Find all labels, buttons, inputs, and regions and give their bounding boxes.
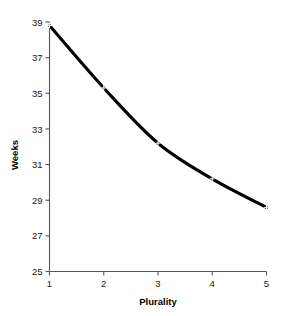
x-tick-label: 5 bbox=[264, 278, 269, 289]
x-tick-label: 4 bbox=[210, 278, 215, 289]
line-chart: 2527293133353739 12345 Plurality Weeks bbox=[0, 0, 288, 316]
y-axis-title: Weeks bbox=[9, 140, 20, 170]
y-tick-label: 29 bbox=[32, 195, 43, 206]
chart-background bbox=[0, 0, 288, 316]
x-tick-label: 1 bbox=[47, 278, 52, 289]
y-tick-label: 33 bbox=[32, 124, 43, 135]
y-tick-label: 35 bbox=[32, 88, 43, 99]
y-tick-label: 37 bbox=[32, 52, 43, 63]
y-tick-label: 31 bbox=[32, 159, 43, 170]
chart-container: 2527293133353739 12345 Plurality Weeks bbox=[0, 0, 288, 316]
x-axis-title: Plurality bbox=[139, 296, 177, 307]
x-tick-label: 3 bbox=[155, 278, 160, 289]
x-tick-label: 2 bbox=[101, 278, 106, 289]
y-tick-label: 39 bbox=[32, 17, 43, 28]
y-tick-label: 27 bbox=[32, 230, 43, 241]
y-tick-label: 25 bbox=[32, 266, 43, 277]
